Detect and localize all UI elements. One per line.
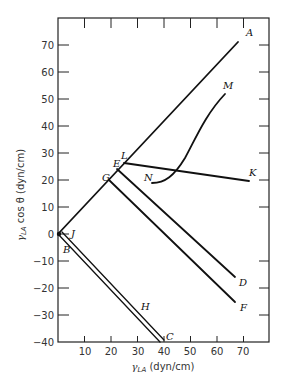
- y-axis-title: γLA cos θ (dyn/cm): [15, 149, 28, 241]
- label-G: G: [102, 172, 110, 183]
- x-tick-labels: 10 20 30 40 50 60 70: [79, 346, 250, 357]
- label-E: E: [112, 158, 121, 169]
- svg-text:40: 40: [158, 346, 171, 357]
- label-N: N: [143, 172, 154, 183]
- line-BC-outer: [58, 234, 160, 342]
- svg-text:60: 60: [41, 67, 54, 78]
- label-B: B: [62, 244, 70, 255]
- line-ED: [117, 169, 235, 277]
- label-D: D: [238, 277, 247, 288]
- svg-text:−20: −20: [33, 283, 54, 294]
- svg-text:−30: −30: [33, 310, 54, 321]
- line-OA: [58, 42, 238, 234]
- label-J: J: [69, 228, 76, 239]
- line-LK: [124, 163, 249, 181]
- y-ticks-left: [58, 45, 69, 315]
- chart: 10 20 30 40 50 60 70 70 60 50 40 30 20 1…: [0, 0, 285, 383]
- y-ticks-right: [259, 45, 269, 315]
- label-C: C: [166, 331, 174, 342]
- svg-text:10: 10: [41, 202, 54, 213]
- svg-text:30: 30: [41, 148, 54, 159]
- origin-point: [57, 232, 61, 236]
- svg-text:20: 20: [105, 346, 118, 357]
- svg-text:−40: −40: [33, 337, 54, 348]
- svg-text:−10: −10: [33, 256, 54, 267]
- x-ticks-top: [85, 18, 244, 28]
- svg-text:30: 30: [132, 346, 145, 357]
- svg-text:20: 20: [41, 175, 54, 186]
- label-K: K: [248, 167, 257, 178]
- svg-text:40: 40: [41, 121, 54, 132]
- svg-text:10: 10: [79, 346, 92, 357]
- x-ticks-bottom: [85, 336, 244, 342]
- svg-text:60: 60: [211, 346, 224, 357]
- label-A: A: [245, 27, 253, 38]
- label-L: L: [120, 150, 128, 161]
- svg-text:70: 70: [41, 40, 54, 51]
- curve-NM: [152, 94, 225, 183]
- label-F: F: [239, 302, 248, 313]
- svg-text:50: 50: [41, 94, 54, 105]
- y-tick-labels: 70 60 50 40 30 20 10 0 −10 −20 −30 −40: [33, 40, 54, 348]
- svg-text:50: 50: [184, 346, 197, 357]
- line-BC-inner: [62, 232, 164, 340]
- line-GF: [109, 180, 235, 302]
- x-axis-title: γLA (dyn/cm): [132, 361, 195, 374]
- label-H: H: [140, 301, 150, 312]
- data-lines: [58, 42, 249, 342]
- svg-text:70: 70: [237, 346, 250, 357]
- label-M: M: [222, 80, 234, 91]
- svg-text:0: 0: [48, 229, 54, 240]
